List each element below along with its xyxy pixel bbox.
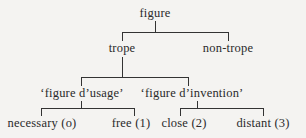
connector [188,77,189,86]
node-distant: distant (3) [236,116,289,130]
node-trope: trope [109,41,136,55]
connector [122,32,229,33]
node-necessary: necessary (o) [8,116,77,130]
node-figure: figure [139,6,170,20]
connector [122,32,123,41]
connector [81,77,82,86]
connector [180,108,264,109]
node-figure-dinvention: ‘figure d’invention’ [141,86,244,100]
node-close: close (2) [161,116,206,130]
connector [263,108,264,116]
node-figure-dusage: ‘figure d’usage’ [40,86,123,100]
connector [122,57,123,77]
node-non-trope: non-trope [203,41,253,55]
connector [134,108,135,116]
connector [180,108,181,116]
connector [81,77,189,78]
connector [41,108,135,109]
connector [41,108,42,116]
connector [228,32,229,41]
node-free: free (1) [112,116,151,130]
